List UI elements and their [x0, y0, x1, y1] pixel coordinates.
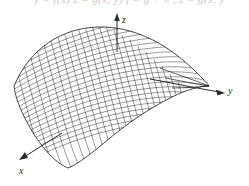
y-axis-label: y — [228, 86, 232, 96]
mesh-lines-v — [0, 10, 222, 186]
z-axis-label: z — [122, 15, 126, 25]
surface-left-edge — [14, 86, 68, 168]
x-axis-label: x — [19, 166, 23, 176]
surface-figure: y = f(x) z = g(x, y) f = g + h , z = g(x… — [0, 0, 249, 186]
x-axis — [19, 133, 62, 160]
surface-outline — [14, 27, 209, 168]
surface-top-ridge — [14, 27, 209, 86]
x-axis-arrowhead — [19, 152, 28, 160]
surface-plot-canvas — [0, 0, 249, 186]
surface-mesh — [0, 10, 232, 186]
y-axis-arrowhead — [216, 89, 225, 95]
z-axis-arrowhead — [114, 13, 120, 21]
